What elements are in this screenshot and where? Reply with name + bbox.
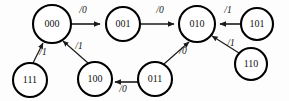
state-diagram-container: /0 /0 /1 /1 /0 /0 /1 [0, 0, 289, 101]
transition-001-to-010: /0 [140, 5, 174, 24]
state-node-010[interactable]: 010 [179, 6, 215, 42]
transition-label-011-100: /0 [118, 84, 127, 94]
transition-label-100-000: /1 [74, 41, 82, 51]
transition-111-to-000: /1 [33, 43, 47, 63]
state-label-000: 000 [45, 18, 60, 29]
transition-arrow-110-010 [212, 36, 239, 53]
transition-011-to-010: /0 [164, 42, 189, 64]
state-node-011[interactable]: 011 [138, 62, 172, 96]
transition-label-111-000: /1 [38, 47, 46, 57]
state-node-101[interactable]: 101 [241, 8, 273, 40]
state-diagram-canvas: /0 /0 /1 /1 /0 /0 /1 [0, 0, 289, 101]
state-label-111: 111 [23, 74, 37, 85]
transition-label-000-001: /0 [78, 5, 87, 15]
transition-000-to-001: /0 [71, 5, 100, 24]
state-node-100[interactable]: 100 [78, 62, 112, 96]
transition-101-to-010: /1 [220, 5, 241, 24]
transition-100-to-000: /1 [63, 41, 88, 63]
state-node-111[interactable]: 111 [13, 63, 47, 97]
transition-011-to-100: /0 [115, 82, 138, 94]
state-label-100: 100 [88, 73, 103, 84]
state-label-011: 011 [148, 73, 163, 84]
state-label-001: 001 [116, 18, 131, 29]
state-node-110[interactable]: 110 [235, 48, 267, 80]
state-label-110: 110 [244, 58, 259, 69]
transition-label-110-010: /1 [226, 38, 234, 48]
state-node-001[interactable]: 001 [106, 7, 140, 41]
transition-label-011-010: /0 [178, 46, 187, 56]
state-label-101: 101 [250, 18, 265, 29]
transition-label-001-010: /0 [155, 5, 164, 15]
transition-label-101-010: /1 [223, 5, 231, 15]
state-label-010: 010 [190, 18, 205, 29]
state-node-000[interactable]: 000 [33, 5, 71, 43]
transition-110-to-010: /1 [212, 36, 239, 53]
